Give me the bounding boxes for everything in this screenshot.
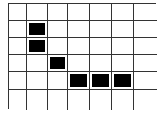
empty-cell (48, 4, 68, 21)
empty-cell (90, 38, 112, 55)
empty-cell (134, 72, 157, 90)
empty-cell (134, 4, 157, 21)
empty-cell (9, 90, 27, 110)
empty-cell (68, 4, 90, 21)
empty-cell (90, 55, 112, 72)
empty-cell (48, 90, 68, 110)
empty-cell (90, 90, 112, 110)
empty-cell (68, 21, 90, 38)
empty-cell (68, 38, 90, 55)
empty-cell (48, 72, 68, 90)
empty-cell (68, 55, 90, 72)
filled-cell (27, 38, 48, 55)
filled-cell (27, 21, 48, 38)
pixel-grid (8, 3, 156, 109)
empty-cell (90, 21, 112, 38)
empty-cell (112, 90, 134, 110)
empty-cell (134, 38, 157, 55)
filled-cell (90, 72, 112, 90)
empty-cell (27, 4, 48, 21)
empty-cell (134, 55, 157, 72)
empty-cell (68, 90, 90, 110)
empty-cell (9, 4, 27, 21)
empty-cell (9, 21, 27, 38)
empty-cell (112, 55, 134, 72)
empty-cell (134, 90, 157, 110)
filled-cell (48, 55, 68, 72)
empty-cell (48, 38, 68, 55)
empty-cell (9, 38, 27, 55)
empty-cell (27, 90, 48, 110)
empty-cell (90, 4, 112, 21)
empty-cell (9, 72, 27, 90)
empty-cell (27, 72, 48, 90)
filled-cell (112, 72, 134, 90)
empty-cell (112, 38, 134, 55)
empty-cell (134, 21, 157, 38)
filled-cell (68, 72, 90, 90)
empty-cell (112, 21, 134, 38)
empty-cell (112, 4, 134, 21)
empty-cell (48, 21, 68, 38)
empty-cell (9, 55, 27, 72)
empty-cell (27, 55, 48, 72)
